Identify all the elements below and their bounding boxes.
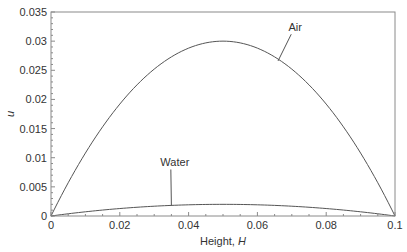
y-tick-label: 0.025 xyxy=(19,64,47,76)
y-tick-label: 0.01 xyxy=(26,152,47,164)
x-axis-label: Height, H xyxy=(200,235,246,247)
y-axis-label: u xyxy=(4,111,16,117)
y-tick-label: 0.02 xyxy=(26,93,47,105)
y-tick-label: 0.015 xyxy=(19,123,47,135)
y-tick-label: 0.035 xyxy=(19,6,47,18)
x-tick-label: 0 xyxy=(48,219,54,231)
annotation-water: Water xyxy=(160,156,189,168)
y-tick-label: 0 xyxy=(41,210,47,222)
x-tick-label: 0.06 xyxy=(247,219,268,231)
y-tick-label: 0.03 xyxy=(26,35,47,47)
x-tick-label: 0.04 xyxy=(178,219,199,231)
x-tick-label: 0.08 xyxy=(315,219,336,231)
annotation-leader-line xyxy=(171,169,172,205)
x-tick-label: 0.02 xyxy=(109,219,130,231)
annotation-air: Air xyxy=(289,21,303,33)
y-tick-label: 0.005 xyxy=(19,181,47,193)
chart: 00.0050.010.0150.020.0250.030.035 00.020… xyxy=(0,0,407,252)
x-tick-label: 0.1 xyxy=(387,219,402,231)
